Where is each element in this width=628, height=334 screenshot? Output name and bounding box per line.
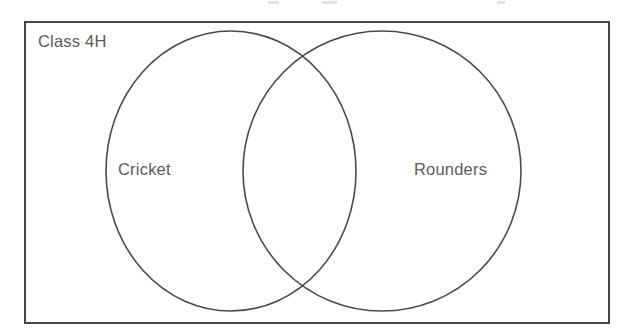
set-label-rounders: Rounders xyxy=(414,160,487,179)
universal-set-label: Class 4H xyxy=(38,32,107,51)
set-label-cricket: Cricket xyxy=(118,160,171,179)
figure-canvas: Class 4H Cricket Rounders xyxy=(0,0,628,334)
